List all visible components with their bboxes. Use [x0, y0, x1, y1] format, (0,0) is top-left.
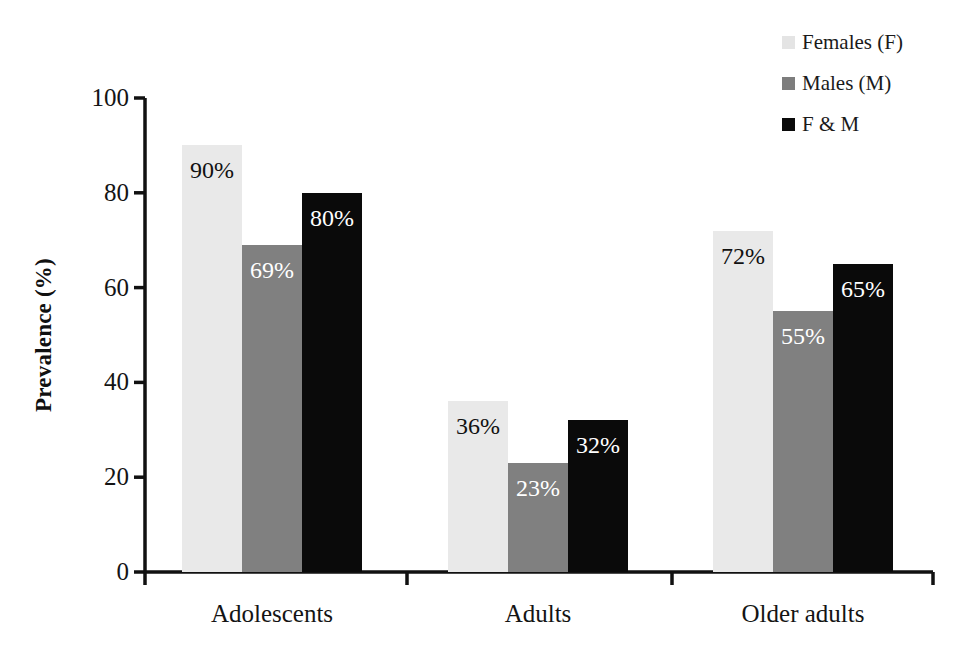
bar: 90% [182, 145, 242, 572]
y-axis-title: Prevalence (%) [22, 98, 66, 572]
bar: 55% [773, 311, 833, 572]
bar: 65% [833, 264, 893, 572]
y-axis-tick-label: 60 [69, 275, 129, 300]
bar-value-label: 69% [242, 258, 302, 282]
bar-chart: Females (F) Males (M) F & M Prevalence (… [0, 0, 961, 654]
bar: 72% [713, 231, 773, 572]
bar-value-label: 80% [302, 206, 362, 230]
bar-value-label: 65% [833, 277, 893, 301]
y-axis-tick-label: 100 [69, 85, 129, 110]
y-axis-tick-label: 40 [69, 369, 129, 394]
plot-area: 90%69%80%36%23%32%72%55%65% [145, 98, 933, 572]
bar: 36% [448, 401, 508, 572]
legend-swatch-males [782, 77, 795, 90]
bar: 23% [508, 463, 568, 572]
legend-label-males: Males (M) [802, 73, 891, 94]
legend-swatch-females [782, 36, 795, 49]
bar-value-label: 23% [508, 476, 568, 500]
bar-value-label: 36% [448, 414, 508, 438]
bar: 32% [568, 420, 628, 572]
bar-value-label: 32% [568, 433, 628, 457]
y-axis-tick-label: 80 [69, 180, 129, 205]
bar-value-label: 72% [713, 244, 773, 268]
bar: 80% [302, 193, 362, 572]
legend-label-females: Females (F) [802, 32, 903, 53]
legend-item-females: Females (F) [782, 22, 961, 63]
x-axis-category-label: Older adults [653, 601, 953, 626]
x-axis-category-label: Adults [388, 601, 688, 626]
bar-value-label: 55% [773, 324, 833, 348]
x-axis-category-label: Adolescents [122, 601, 422, 626]
bar: 69% [242, 245, 302, 572]
bar-value-label: 90% [182, 158, 242, 182]
y-axis-tick-label: 20 [69, 464, 129, 489]
y-axis-tick-label: 0 [69, 559, 129, 584]
